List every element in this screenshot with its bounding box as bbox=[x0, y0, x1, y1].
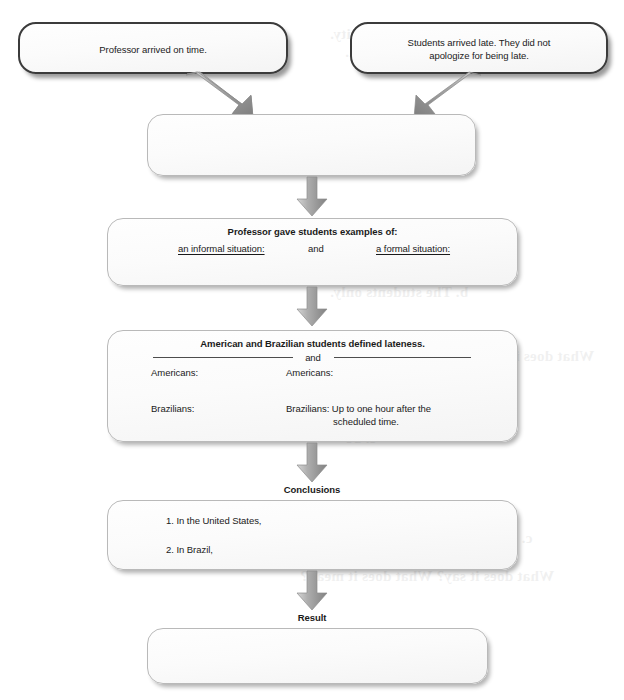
premise-left-text: Professor arrived on time. bbox=[20, 43, 286, 56]
lateness-conjunction: and bbox=[293, 351, 333, 364]
arrow-merge-to-examples bbox=[295, 177, 329, 217]
conclusions-caption: Conclusions bbox=[0, 484, 624, 495]
bleed-text: b. The students only. bbox=[330, 284, 468, 301]
examples-box[interactable]: Professor gave students examples of: an … bbox=[107, 218, 518, 286]
examples-formal-label: a formal situation: bbox=[376, 242, 450, 255]
lateness-box[interactable]: American and Brazilian students defined … bbox=[107, 330, 518, 442]
lateness-left-americans: Americans: bbox=[151, 366, 198, 379]
arrow-left-diagonal bbox=[185, 72, 265, 120]
conclusions-box[interactable]: 1. In the United States, 2. In Brazil, bbox=[107, 500, 518, 570]
lateness-rule-right bbox=[334, 357, 471, 358]
lateness-heading: American and Brazilian students defined … bbox=[108, 337, 517, 350]
examples-heading: Professor gave students examples of: bbox=[108, 225, 517, 238]
premise-right-box[interactable]: Students arrived late. They did not apol… bbox=[350, 22, 608, 74]
lateness-right-brazilians-line2: scheduled time. bbox=[286, 415, 446, 428]
arrow-conclusions-to-result bbox=[295, 571, 329, 611]
conclusions-item-2: 2. In Brazil, bbox=[166, 543, 213, 556]
lateness-right-brazilians-line1: Brazilians: Up to one hour after the bbox=[286, 402, 431, 415]
examples-conjunction: and bbox=[308, 242, 324, 255]
premise-right-text-line1: Students arrived late. They did not bbox=[352, 36, 606, 49]
result-caption: Result bbox=[0, 612, 624, 623]
arrow-lateness-to-conclusions bbox=[295, 443, 329, 483]
arrow-examples-to-lateness bbox=[295, 287, 329, 327]
premise-left-box[interactable]: Professor arrived on time. bbox=[18, 22, 288, 74]
bleed-text: What does it say? What does it mean? bbox=[300, 568, 554, 585]
arrow-right-diagonal bbox=[404, 72, 482, 120]
lateness-left-brazilians: Brazilians: bbox=[151, 402, 194, 415]
merge-box[interactable] bbox=[147, 114, 476, 176]
conclusions-item-1: 1. In the United States, bbox=[166, 514, 261, 527]
premise-right-text-line2: apologize for being late. bbox=[352, 49, 606, 62]
examples-informal-label: an informal situation: bbox=[178, 242, 265, 255]
result-box[interactable] bbox=[147, 628, 488, 684]
lateness-rule-left bbox=[153, 357, 293, 358]
lateness-right-americans: Americans: bbox=[286, 366, 333, 379]
